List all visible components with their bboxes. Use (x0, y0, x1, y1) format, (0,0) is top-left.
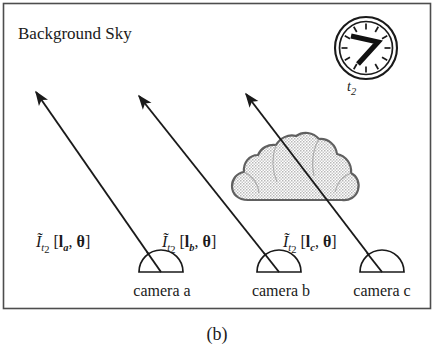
background-sky-label: Background Sky (18, 24, 132, 43)
clock-time-subscript: 2 (351, 86, 357, 97)
camera-c-label: camera c (353, 282, 410, 299)
camera-b-label: camera b (252, 282, 310, 299)
figure-caption: (b) (207, 324, 228, 345)
figure-root: Background Sky (0, 0, 434, 351)
camera-a-label: camera a (133, 282, 190, 299)
figure-canvas: Background Sky (0, 0, 434, 351)
